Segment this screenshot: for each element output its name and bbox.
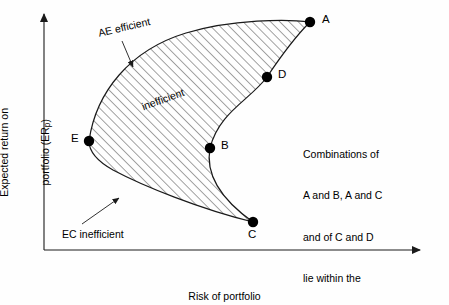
point-label-b: B xyxy=(221,139,229,153)
x-axis-title-line-1: Risk of portfolio xyxy=(0,290,449,304)
point-marker-B xyxy=(205,143,215,153)
ec-inefficient-leader xyxy=(82,198,119,224)
y-axis-title-line-2: portfolio (ERp) xyxy=(39,62,55,242)
point-label-c: C xyxy=(248,228,256,242)
point-label-a: A xyxy=(322,13,330,27)
y-axis-title-suffix: ) xyxy=(39,119,51,123)
y-axis-title-line-1: Expected return on xyxy=(0,62,11,242)
point-marker-C xyxy=(248,217,258,227)
y-axis-title: Expected return on portfolio (ERp) xyxy=(0,62,82,242)
point-marker-E xyxy=(84,136,94,146)
ae-efficient-leader xyxy=(122,41,133,67)
envelope-note-line-1: Combinations of xyxy=(303,148,382,162)
point-label-d: D xyxy=(278,68,286,82)
point-marker-A xyxy=(305,17,315,27)
efficient-frontier-figure: A D E B C AE efficient inefficient EC in… xyxy=(0,0,449,305)
envelope-note-line-3: and of C and D xyxy=(303,231,382,245)
point-marker-D xyxy=(262,72,272,82)
y-axis-title-prefix: portfolio (ER xyxy=(39,127,51,185)
x-axis-title: Risk of portfolio (Standard deviation, σ… xyxy=(0,262,449,305)
envelope-note-line-2: A and B, A and C xyxy=(303,189,382,203)
y-axis-subscript: p xyxy=(44,123,53,128)
